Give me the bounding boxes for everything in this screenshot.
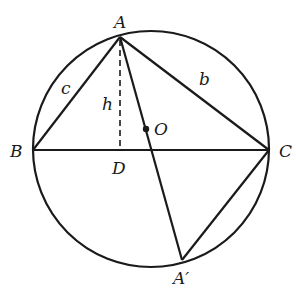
label-A-prime: A′ (171, 268, 189, 288)
label-side-b: b (199, 69, 210, 89)
side-AC (120, 37, 269, 150)
circumcircle-triangle-diagram: A B C D O A′ c b h (0, 0, 296, 289)
label-B: B (9, 141, 23, 161)
diameter-AA-prime (120, 37, 182, 260)
label-A: A (112, 12, 126, 32)
label-height-h: h (102, 94, 113, 114)
center-point-O (143, 126, 149, 132)
label-side-c: c (61, 78, 71, 98)
label-D: D (111, 158, 126, 178)
label-C: C (279, 141, 292, 161)
label-O: O (154, 119, 168, 139)
